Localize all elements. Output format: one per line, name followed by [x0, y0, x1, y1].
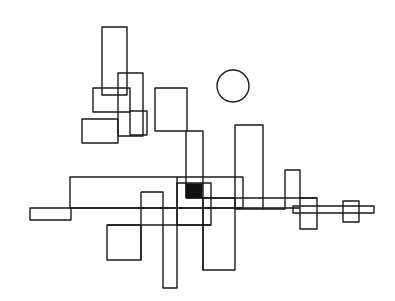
rect-right-long: [293, 206, 374, 213]
rect-upper-wide: [93, 88, 130, 112]
geometric-line-art: [0, 0, 395, 301]
rect-right-tall: [235, 125, 263, 209]
rect-bottom-left: [107, 225, 141, 260]
artwork-canvas: [0, 0, 395, 301]
rect-small-left: [30, 208, 71, 220]
rect-bottom-tall: [203, 198, 235, 270]
rect-center-square: [155, 88, 187, 131]
tall-rect-top-left: [102, 27, 127, 95]
path-center-connector: [187, 131, 203, 270]
path-step-right: [263, 170, 300, 209]
rect-lower-left: [82, 119, 118, 143]
sun-circle: [217, 70, 249, 102]
rect-right-square: [343, 201, 359, 222]
rect-small-right: [130, 111, 147, 135]
path-stem-141: [141, 177, 177, 288]
filled-square: [186, 184, 202, 198]
